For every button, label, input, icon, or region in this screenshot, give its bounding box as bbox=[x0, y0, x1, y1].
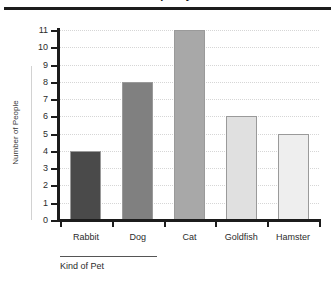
chart-title-clipped: Number of People by Kind of Pet bbox=[0, 0, 335, 6]
plot-area bbox=[60, 30, 319, 220]
x-axis-title: Kind of Pet bbox=[60, 261, 104, 272]
y-axis-title-rule bbox=[31, 66, 32, 220]
x-axis-tick-label: Goldfish bbox=[215, 232, 267, 242]
y-axis-tick-label: 1 bbox=[28, 199, 48, 208]
y-axis-line bbox=[57, 28, 60, 222]
title-separator-rule bbox=[4, 7, 331, 10]
y-axis-tick-label: 7 bbox=[28, 95, 48, 104]
x-axis-tick-label: Rabbit bbox=[60, 232, 112, 242]
x-axis-tick-label: Hamster bbox=[267, 232, 319, 242]
bar bbox=[278, 134, 309, 220]
x-axis-tick bbox=[215, 219, 217, 227]
bar-chart-figure: Number of People by Kind of Pet Number o… bbox=[0, 0, 335, 281]
y-axis-tick-label: 2 bbox=[28, 181, 48, 190]
y-axis-tick-label: 4 bbox=[28, 147, 48, 156]
x-axis-tick bbox=[267, 219, 269, 227]
x-axis-tick-label: Cat bbox=[164, 232, 216, 242]
bar bbox=[226, 116, 257, 220]
bar bbox=[174, 30, 205, 220]
y-axis-tick-label: 10 bbox=[28, 43, 48, 52]
chart-title: Number of People by Kind of Pet bbox=[0, 0, 335, 2]
y-axis-tick-label: 8 bbox=[28, 78, 48, 87]
x-axis-tick bbox=[112, 219, 114, 227]
x-axis-tick bbox=[319, 219, 321, 227]
bar bbox=[70, 151, 101, 220]
y-axis-tick-label: 9 bbox=[28, 61, 48, 70]
y-axis-tick-label: 3 bbox=[28, 164, 48, 173]
x-axis-tick bbox=[164, 219, 166, 227]
x-axis-tick-label: Dog bbox=[112, 232, 164, 242]
x-axis-line bbox=[57, 219, 320, 222]
x-axis-tick bbox=[60, 219, 62, 227]
y-axis-title: Number of People bbox=[11, 85, 20, 181]
x-axis-title-rule bbox=[60, 256, 157, 257]
y-axis-tick-label: 5 bbox=[28, 130, 48, 139]
bars-group bbox=[60, 30, 319, 220]
bar bbox=[122, 82, 153, 220]
y-axis-tick-label: 11 bbox=[28, 26, 48, 35]
y-axis-tick-label: 0 bbox=[28, 216, 48, 225]
y-axis-tick-label: 6 bbox=[28, 112, 48, 121]
